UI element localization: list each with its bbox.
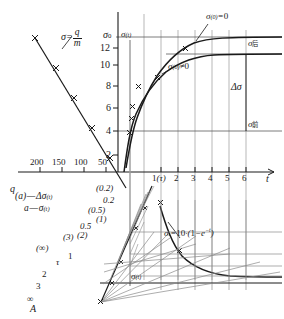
fan-diagonal-tau: τ xyxy=(56,258,59,267)
label-sigma-t-bottom: σ(t) xyxy=(131,272,141,281)
x-tick-4: 4 xyxy=(208,174,213,183)
axis-y-ticks xyxy=(113,48,118,155)
x-tick-2: 2 xyxy=(174,174,179,183)
curve-sigma0-not-equals-0 xyxy=(124,54,282,172)
lower-grid-horizontals xyxy=(130,232,282,276)
label-decay-formula: σt=10·(1−e−t) xyxy=(164,228,214,238)
label-sigma-t-vertical: σ(t) xyxy=(121,30,131,39)
label-asymptote-lower-sigma-qian: σ前 xyxy=(248,120,258,129)
curve-upper-leader xyxy=(196,24,208,41)
fan-diagonal-2: 2 xyxy=(42,270,47,279)
figure-root: σ0 12 10 8 6 4 2 σ(t) 1(τ) 2 3 4 5 6 t 2… xyxy=(0,0,284,319)
left-scale-200: 200 xyxy=(30,158,44,167)
y-tick-12: 12 xyxy=(100,43,110,53)
y-tick-8: 8 xyxy=(106,81,111,91)
fan-diagonal-3: 3 xyxy=(36,282,41,291)
label-load-line-formula: σ=qm xyxy=(61,28,82,48)
label-asymptote-upper-sigma-hou: σ后 xyxy=(248,39,258,48)
left-scale-50: 50 xyxy=(98,158,107,167)
label-curve-sigma0-equals-0: σ(0)=0 xyxy=(206,12,228,21)
y-tick-6: 6 xyxy=(106,103,111,113)
fan-label-0p2: 0.2 xyxy=(103,196,114,205)
fan-diagonal-1: 1 xyxy=(68,252,73,261)
x-tick-3: 3 xyxy=(191,174,196,183)
fan-rays xyxy=(101,232,280,302)
legend-line-2: a — σ(t) xyxy=(24,204,50,214)
label-origin-point-A: A xyxy=(30,304,36,314)
left-scale-100: 100 xyxy=(74,158,88,167)
fan-label-paren-3: (3) xyxy=(63,233,74,242)
x-tick-6: 6 xyxy=(242,174,247,183)
fan-label-paren-1: (1) xyxy=(96,215,107,224)
label-delta-sigma: Δσ xyxy=(231,82,242,92)
x-tick-1-tau: 1(τ) xyxy=(152,174,166,183)
axis-x-ticks xyxy=(40,167,246,172)
left-scale-150: 150 xyxy=(52,158,66,167)
y-tick-10: 10 xyxy=(100,60,110,70)
decay-curve-markers xyxy=(158,200,182,253)
fan-label-paren-infinity: (∞) xyxy=(36,244,48,253)
x-axis-label-t: t xyxy=(266,174,269,184)
fan-label-paren-2: (2) xyxy=(77,231,88,240)
x-tick-5: 5 xyxy=(225,174,230,183)
fan-label-paren-0p2: (0.2) xyxy=(96,184,113,193)
axis-label-sigma-0: σ0 xyxy=(103,30,111,40)
fan-diagonal-markers xyxy=(110,206,147,285)
legend-line-1: (a) — Δσ(t) xyxy=(15,192,52,202)
y-tick-4: 4 xyxy=(106,126,111,136)
label-curve-sigma0-not-equals-0: σ(0)≠0 xyxy=(168,62,189,71)
